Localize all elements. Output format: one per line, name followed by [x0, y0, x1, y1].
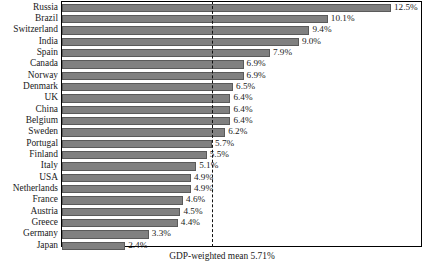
bar-germany	[62, 230, 149, 238]
bar-spain	[62, 49, 270, 57]
value-label-sweden: 6.2%	[228, 126, 247, 137]
value-label-switzerland: 9.4%	[312, 24, 331, 35]
category-label-greece: Greece	[31, 217, 58, 228]
bar-japan	[62, 242, 125, 250]
bar-sweden	[62, 128, 225, 136]
bar-belgium	[62, 117, 230, 125]
bar-norway	[62, 72, 244, 80]
category-label-germany: Germany	[23, 228, 58, 239]
value-label-netherlands: 4.9%	[194, 183, 213, 194]
bar-italy	[62, 162, 196, 170]
value-label-china: 6.4%	[233, 104, 252, 115]
value-label-italy: 5.1%	[199, 160, 218, 171]
category-label-norway: Norway	[28, 70, 58, 81]
bar-portugal	[62, 140, 212, 148]
category-label-usa: USA	[39, 172, 58, 183]
bar-russia	[62, 4, 391, 12]
value-label-uk: 6.4%	[233, 92, 252, 103]
category-label-netherlands: Netherlands	[13, 183, 58, 194]
category-label-india: India	[39, 36, 58, 47]
bar-india	[62, 38, 299, 46]
value-label-spain: 7.9%	[273, 47, 292, 58]
mean-annotation-label: GDP-weighted mean 5.71%	[169, 251, 274, 261]
category-label-france: France	[32, 194, 58, 205]
category-label-russia: Russia	[33, 2, 58, 13]
bar-uk	[62, 94, 230, 102]
category-label-switzerland: Switzerland	[13, 24, 58, 35]
category-label-spain: Spain	[37, 47, 58, 58]
category-label-japan: Japan	[37, 240, 58, 251]
bar-china	[62, 106, 230, 114]
value-label-portugal: 5.7%	[215, 138, 234, 149]
bar-chart: Russia12.5%Brazil10.1%Switzerland9.4%Ind…	[0, 0, 423, 269]
bar-brazil	[62, 15, 328, 23]
category-label-portugal: Portugal	[26, 138, 58, 149]
bar-usa	[62, 174, 191, 182]
value-label-denmark: 6.5%	[236, 81, 255, 92]
bar-switzerland	[62, 26, 309, 34]
value-label-france: 4.6%	[186, 194, 205, 205]
mean-reference-line	[212, 1, 213, 247]
category-label-denmark: Denmark	[23, 81, 58, 92]
bar-greece	[62, 219, 178, 227]
category-label-belgium: Belgium	[26, 115, 58, 126]
bar-france	[62, 196, 183, 204]
category-label-austria: Austria	[30, 206, 58, 217]
category-label-china: China	[36, 104, 58, 115]
value-label-russia: 12.5%	[394, 2, 418, 13]
value-label-canada: 6.9%	[247, 58, 266, 69]
value-label-belgium: 6.4%	[233, 115, 252, 126]
bar-netherlands	[62, 185, 191, 193]
category-label-sweden: Sweden	[28, 126, 58, 137]
bar-canada	[62, 60, 244, 68]
category-label-uk: UK	[44, 92, 58, 103]
value-label-austria: 4.5%	[183, 206, 202, 217]
value-label-norway: 6.9%	[247, 70, 266, 81]
value-label-brazil: 10.1%	[331, 13, 355, 24]
value-label-usa: 4.9%	[194, 172, 213, 183]
bar-denmark	[62, 83, 233, 91]
value-label-germany: 3.3%	[152, 228, 171, 239]
value-label-japan: 2.4%	[128, 240, 147, 251]
category-label-canada: Canada	[30, 58, 58, 69]
value-label-india: 9.0%	[302, 36, 321, 47]
bar-austria	[62, 208, 180, 216]
category-label-brazil: Brazil	[35, 13, 58, 24]
bar-finland	[62, 151, 207, 159]
value-label-greece: 4.4%	[181, 217, 200, 228]
category-label-italy: Italy	[41, 160, 58, 171]
category-label-finland: Finland	[29, 149, 58, 160]
